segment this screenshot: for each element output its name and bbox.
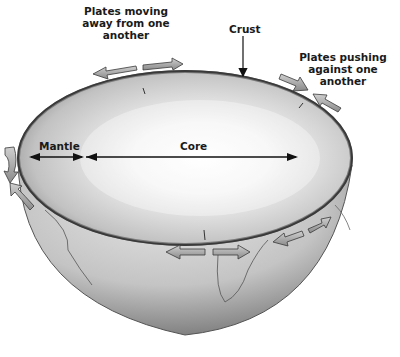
plates-pushing-label: Plates pushing against one another: [298, 51, 388, 87]
label-line: another: [298, 75, 388, 87]
plates-apart-label: Plates moving away from one another: [80, 5, 172, 41]
label-line: away from one: [80, 17, 172, 29]
label-line: against one: [298, 63, 388, 75]
earth-layers-diagram: Plates moving away from one another Crus…: [0, 0, 400, 357]
core-label: Core: [180, 140, 207, 152]
label-line: Plates pushing: [298, 51, 388, 63]
cross-section-face: [17, 70, 353, 246]
label-line: Plates moving: [80, 5, 172, 17]
mantle-label: Mantle: [39, 140, 80, 152]
crust-label: Crust: [229, 23, 261, 35]
label-line: another: [80, 29, 172, 41]
